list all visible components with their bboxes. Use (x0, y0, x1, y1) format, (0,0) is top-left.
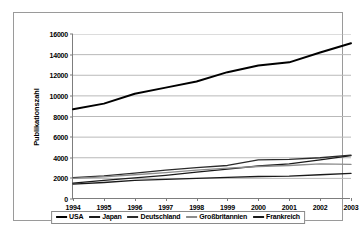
y-tick-label: 6000 (53, 134, 68, 141)
series-line (73, 155, 351, 177)
x-tick-mark (289, 198, 290, 201)
x-tick-label: 1998 (189, 204, 204, 211)
x-tick-mark (258, 198, 259, 201)
x-tick-mark (227, 198, 228, 201)
legend-swatch-icon (89, 216, 100, 218)
legend-item: Japan (89, 213, 121, 221)
x-tick-label: 2002 (313, 204, 328, 211)
x-tick-label: 1995 (96, 204, 111, 211)
legend-item: USA (56, 213, 83, 221)
y-tick-mark (70, 137, 73, 138)
x-tick-mark (104, 198, 105, 201)
legend-item: Frankreich (253, 213, 300, 221)
y-tick-label: 0 (64, 196, 68, 203)
x-tick-mark (351, 198, 352, 201)
x-tick-label: 1994 (66, 204, 81, 211)
legend-label: Deutschland (141, 213, 181, 221)
x-tick-label: 2000 (251, 204, 266, 211)
y-tick-mark (70, 157, 73, 158)
x-tick-label: 1996 (127, 204, 142, 211)
x-tick-label: 1997 (158, 204, 173, 211)
chart-legend: USAJapanDeutschlandGroßbritannienFrankre… (51, 211, 305, 224)
x-tick-mark (197, 198, 198, 201)
legend-label: Japan (102, 213, 121, 221)
y-tick-label: 12000 (50, 72, 68, 79)
x-tick-label: 2003 (344, 204, 359, 211)
legend-swatch-icon (128, 216, 139, 218)
chart-frame: Publikationszahl 02000400060008000100001… (13, 12, 343, 221)
y-tick-mark (70, 178, 73, 179)
legend-item: Deutschland (128, 213, 181, 221)
y-tick-mark (70, 54, 73, 55)
y-tick-label: 4000 (53, 154, 68, 161)
legend-label: Großbritannien (199, 213, 247, 221)
y-axis-title: Publikationszahl (32, 88, 41, 146)
legend-swatch-icon (253, 216, 264, 218)
plot-area: 0200040006000800010000120001400016000 19… (72, 34, 350, 199)
legend-item: Großbritannien (186, 213, 247, 221)
x-tick-mark (320, 198, 321, 201)
y-tick-label: 2000 (53, 175, 68, 182)
y-tick-label: 16000 (50, 31, 68, 38)
y-tick-mark (70, 95, 73, 96)
x-tick-mark (135, 198, 136, 201)
series-lines (73, 34, 351, 199)
series-line (73, 43, 351, 109)
legend-swatch-icon (186, 216, 197, 218)
x-tick-label: 1999 (220, 204, 235, 211)
x-tick-mark (73, 198, 74, 201)
y-tick-label: 8000 (53, 113, 68, 120)
y-tick-mark (70, 116, 73, 117)
legend-swatch-icon (56, 216, 67, 218)
x-tick-mark (166, 198, 167, 201)
y-tick-label: 14000 (50, 51, 68, 58)
y-tick-label: 10000 (50, 92, 68, 99)
x-tick-label: 2001 (282, 204, 297, 211)
legend-label: Frankreich (266, 213, 300, 221)
y-tick-mark (70, 75, 73, 76)
legend-label: USA (69, 213, 83, 221)
y-tick-mark (70, 34, 73, 35)
